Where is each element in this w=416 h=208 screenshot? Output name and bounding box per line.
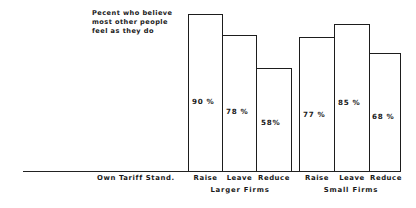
bar-value-small-firms-reduce: 68 % — [372, 112, 395, 121]
bar-small-firms-raise — [299, 37, 335, 172]
tick-label-small-firms-leave: Leave — [334, 174, 370, 182]
x-axis-line — [23, 171, 401, 172]
bar-value-small-firms-raise: 77 % — [303, 110, 326, 119]
bar-larger-firms-raise — [188, 14, 223, 172]
x-axis-title: Own Tariff Stand. — [97, 174, 175, 182]
tick-label-larger-firms-leave: Leave — [222, 174, 257, 182]
tick-label-larger-firms-reduce: Reduce — [256, 174, 292, 182]
group-label-small-firms: Small Firms — [299, 186, 403, 194]
bar-value-small-firms-leave: 85 % — [338, 98, 361, 107]
chart-caption: Pecent who believe most other people fee… — [92, 9, 192, 37]
tick-label-larger-firms-raise: Raise — [188, 174, 223, 182]
bar-value-larger-firms-leave: 78 % — [226, 107, 249, 116]
bar-value-larger-firms-raise: 90 % — [192, 97, 215, 106]
group-label-larger-firms: Larger Firms — [188, 186, 292, 194]
bar-chart: Pecent who believe most other people fee… — [0, 0, 416, 208]
tick-label-small-firms-reduce: Reduce — [369, 174, 403, 182]
bar-larger-firms-leave — [222, 35, 257, 172]
bar-value-larger-firms-reduce: 58% — [261, 118, 280, 127]
tick-label-small-firms-raise: Raise — [299, 174, 335, 182]
